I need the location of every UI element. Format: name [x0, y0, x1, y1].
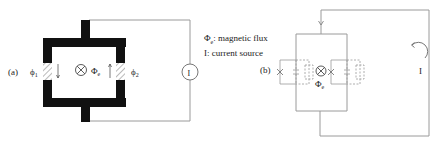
junction-1: [43, 63, 52, 80]
junction-left-circuit: [277, 60, 313, 84]
panel-a: (a) ϕ1 ϕ2 Φe I: [8, 20, 198, 122]
phi1-label: ϕ1: [30, 67, 38, 78]
flux-label-a: Φe: [91, 66, 101, 77]
flux-into-page-icon: [76, 65, 87, 76]
junction-2: [116, 63, 125, 80]
panel-b-label: (b): [260, 65, 271, 75]
arrow-up-icon: [109, 64, 112, 78]
source-label: I: [188, 69, 191, 78]
legend-flux: Φe: magnetic flux: [204, 33, 268, 48]
current-direction-arrow-icon: [412, 42, 428, 58]
legend: Φe: magnetic flux I: current source: [204, 33, 268, 59]
superconducting-ring: [43, 20, 126, 122]
legend-source: I: current source: [204, 48, 268, 59]
panel-a-label: (a): [8, 67, 18, 77]
squid-diagram: (a) ϕ1 ϕ2 Φe I: [0, 0, 443, 143]
flux-label-b: Φe: [315, 79, 325, 90]
flux-into-page-icon: [316, 66, 326, 76]
arrow-down-icon: [57, 64, 60, 78]
junction-right-circuit: [328, 60, 364, 84]
phi2-label: ϕ2: [131, 67, 139, 78]
panel-b: Φe I (b): [260, 10, 429, 136]
squid-loop: [296, 34, 347, 111]
wire-outer: [320, 10, 429, 136]
current-label-b: I: [419, 66, 422, 76]
